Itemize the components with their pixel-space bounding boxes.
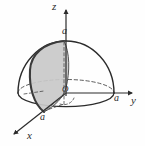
- z-intercept-label: a: [62, 26, 67, 36]
- construction-dashed-arc: [60, 98, 74, 105]
- x-axis-label: x: [27, 130, 32, 141]
- y-axis-label: y: [131, 95, 136, 106]
- x-intercept-label: a: [40, 112, 45, 122]
- geometry-figure: z y x a a a O: [0, 0, 145, 146]
- origin-label: O: [62, 85, 69, 94]
- z-axis-label: z: [52, 1, 56, 12]
- hemisphere-drawing: [0, 0, 145, 146]
- y-intercept-label: a: [114, 93, 119, 103]
